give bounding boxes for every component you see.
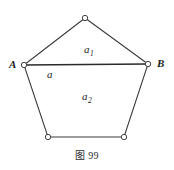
vertex-label-b: B: [157, 58, 164, 69]
vertex-b: [145, 61, 150, 66]
vertex-bottom-left: [45, 134, 50, 139]
vertex-label-a: A: [9, 59, 16, 70]
region-label-a1: a1: [84, 44, 93, 55]
pentagon-diagram: [0, 0, 174, 170]
region-label-a1-subscript: 1: [90, 49, 94, 58]
region-label-a1-base: a: [84, 43, 90, 55]
segment-label-a: a: [47, 69, 53, 80]
vertex-bottom-right: [121, 134, 126, 139]
region-label-a2: a2: [82, 91, 91, 102]
region-label-a2-base: a: [82, 90, 88, 102]
segment-label-a-base: a: [47, 68, 53, 80]
region-label-a2-subscript: 2: [88, 96, 92, 105]
pentagon-outline: [24, 18, 148, 137]
figure-caption: 图 99: [0, 151, 174, 161]
segment-ab: [24, 64, 148, 65]
vertex-apex: [82, 15, 87, 20]
vertex-a: [21, 62, 26, 67]
figure-container: A B a1 a a2 图 99: [0, 0, 174, 170]
